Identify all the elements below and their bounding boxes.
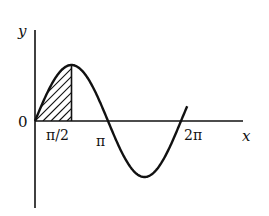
hatch-line — [115, 51, 185, 121]
sine-diagram: y x 0 π/2 π 2π — [0, 0, 269, 216]
x-axis-label: x — [242, 127, 251, 145]
hatch-line — [0, 51, 25, 121]
hatch-line — [0, 51, 49, 121]
hatch-line — [75, 51, 145, 121]
hatch-line — [0, 51, 65, 121]
hatch-line — [99, 51, 169, 121]
hatch-line — [91, 51, 161, 121]
hatch-line — [0, 51, 33, 121]
y-axis-label: y — [17, 22, 27, 40]
tick-label-pi: π — [96, 133, 105, 149]
hatch-line — [107, 51, 177, 121]
hatch-line — [67, 51, 137, 121]
tick-label-two-pi: 2π — [184, 127, 202, 143]
origin-label: 0 — [18, 113, 28, 131]
hatch-line — [0, 51, 57, 121]
tick-label-half-pi: π/2 — [46, 127, 69, 143]
